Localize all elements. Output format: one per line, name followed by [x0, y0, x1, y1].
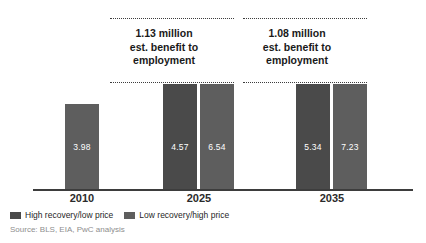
- source-note: Source: BLS, EIA, PwC analysis: [10, 225, 125, 234]
- annotation-callout-2025: 1.13 million est. benefit to employment: [110, 17, 234, 84]
- annotation-line-3: employment: [266, 54, 328, 66]
- annotation-callout-2035: 1.08 million est. benefit to employment: [243, 17, 367, 84]
- x-tick-2010: 2010: [52, 192, 112, 204]
- annotation-line-3: employment: [133, 54, 195, 66]
- annotation-line-1: 1.08 million: [268, 27, 325, 39]
- x-tick-2035: 2035: [302, 192, 362, 204]
- annotation-leader-line-bottom: [243, 82, 367, 83]
- annotation-leader-line-top: [110, 18, 234, 19]
- x-axis-line: [33, 189, 413, 191]
- plot-area: 3.98 4.57 6.54 5.34 7.23 1.13 million es…: [0, 0, 426, 190]
- annotation-line-1: 1.13 million: [135, 27, 192, 39]
- annotation-line-2: est. benefit to: [263, 41, 331, 53]
- legend-item-high-recovery-low-price[interactable]: High recovery/low price: [10, 210, 113, 220]
- bar-value-label: 7.23: [333, 142, 367, 152]
- annotation-line-2: est. benefit to: [130, 41, 198, 53]
- annotation-text-2025: 1.13 million est. benefit to employment: [110, 27, 218, 68]
- legend-label: High recovery/low price: [25, 210, 113, 220]
- legend-swatch-icon: [10, 212, 21, 219]
- annotation-text-2035: 1.08 million est. benefit to employment: [243, 27, 351, 68]
- legend-label: Low recovery/high price: [139, 210, 229, 220]
- bar-2035-high-recovery-low-price[interactable]: 5.34: [296, 82, 330, 190]
- bar-value-label: 5.34: [296, 142, 330, 152]
- chart-legend: High recovery/low price Low recovery/hig…: [10, 210, 229, 220]
- grouped-bar-chart: 3.98 4.57 6.54 5.34 7.23 1.13 million es…: [0, 0, 426, 243]
- bar-2025-high-recovery-low-price[interactable]: 4.57: [163, 82, 197, 190]
- annotation-leader-line-top: [243, 18, 367, 19]
- annotation-leader-line-bottom: [110, 82, 234, 83]
- bar-value-label: 3.98: [65, 142, 99, 152]
- bar-2010-low-recovery-high-price[interactable]: 3.98: [65, 104, 99, 190]
- x-tick-2025: 2025: [169, 192, 229, 204]
- bar-value-label: 4.57: [163, 142, 197, 152]
- bar-value-label: 6.54: [200, 142, 234, 152]
- legend-swatch-icon: [124, 212, 135, 219]
- legend-item-low-recovery-high-price[interactable]: Low recovery/high price: [124, 210, 229, 220]
